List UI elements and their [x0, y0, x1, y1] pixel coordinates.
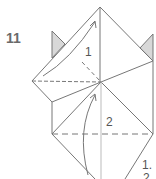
fold-label-2: 2	[106, 115, 113, 129]
fold-arrow-2	[83, 95, 95, 175]
valley-fold-1	[32, 81, 101, 82]
right-flap-shade	[140, 34, 153, 61]
fold-label-1: 1	[85, 45, 92, 59]
left-flap-shade	[52, 31, 65, 58]
note-label-1: 1.	[142, 158, 152, 172]
origami-fold-diagram: 1 2 1. 2	[0, 0, 156, 179]
note-label-2: 2	[143, 171, 150, 179]
